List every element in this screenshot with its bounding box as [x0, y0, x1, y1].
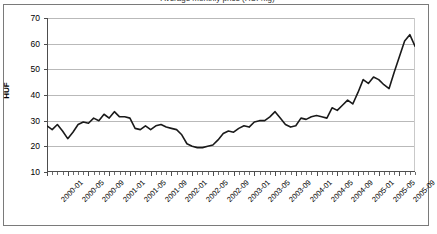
- x-tick-mark: [270, 172, 271, 175]
- x-tick-mark: [145, 172, 146, 175]
- x-tick-label: 2000-09: [101, 178, 127, 204]
- x-tick-mark: [285, 172, 286, 175]
- x-tick-mark: [166, 172, 167, 175]
- x-tick-mark: [394, 172, 395, 175]
- x-tick-label: 2004-01: [308, 178, 334, 204]
- x-tick-mark: [161, 172, 162, 175]
- x-tick-mark: [182, 172, 183, 175]
- x-axis-labels: 2000-012000-052000-092001-012001-052001-…: [0, 176, 435, 234]
- y-tick-label: 40: [31, 90, 40, 100]
- y-tick-label: 50: [31, 64, 40, 74]
- x-tick-mark: [291, 172, 292, 175]
- data-series-line: [47, 18, 415, 172]
- y-tick-mark: [44, 146, 47, 147]
- x-tick-mark: [63, 172, 64, 175]
- x-tick-mark: [114, 172, 115, 175]
- y-tick-mark: [44, 121, 47, 122]
- x-tick-mark: [223, 172, 224, 175]
- x-tick-label: 2003-09: [287, 178, 313, 204]
- chart-title: Average monthly price (HUF/kg): [160, 0, 274, 3]
- x-tick-mark: [311, 172, 312, 175]
- x-tick-mark: [177, 172, 178, 175]
- y-tick-label: 70: [31, 13, 40, 23]
- x-tick-mark: [244, 172, 245, 175]
- y-tick-label: 20: [31, 141, 40, 151]
- x-tick-mark: [120, 172, 121, 175]
- y-axis-labels: 10203040506070: [0, 18, 44, 172]
- x-tick-mark: [384, 172, 385, 175]
- x-tick-mark: [322, 172, 323, 175]
- x-tick-mark: [197, 172, 198, 175]
- x-tick-label: 2000-01: [59, 178, 85, 204]
- x-tick-label: 2002-09: [225, 178, 251, 204]
- x-tick-mark: [202, 172, 203, 175]
- x-tick-mark: [306, 172, 307, 175]
- y-tick-mark: [44, 69, 47, 70]
- y-tick-label: 30: [31, 116, 40, 126]
- y-tick-mark: [44, 44, 47, 45]
- x-tick-mark: [228, 172, 229, 175]
- x-tick-mark: [218, 172, 219, 175]
- x-tick-mark: [83, 172, 84, 175]
- x-tick-mark: [125, 172, 126, 175]
- x-tick-label: 2005-01: [370, 178, 396, 204]
- x-tick-mark: [73, 172, 74, 175]
- x-tick-mark: [348, 172, 349, 175]
- x-tick-mark: [353, 172, 354, 175]
- x-tick-mark: [389, 172, 390, 175]
- x-tick-mark: [342, 172, 343, 175]
- x-tick-mark: [99, 172, 100, 175]
- x-tick-mark: [415, 172, 416, 175]
- y-tick-mark: [44, 95, 47, 96]
- x-tick-mark: [374, 172, 375, 175]
- x-tick-mark: [57, 172, 58, 175]
- x-tick-label: 2002-05: [204, 178, 230, 204]
- x-tick-mark: [260, 172, 261, 175]
- x-tick-label: 2004-05: [329, 178, 355, 204]
- x-tick-label: 2001-05: [142, 178, 168, 204]
- x-tick-label: 2001-01: [121, 178, 147, 204]
- y-tick-mark: [44, 18, 47, 19]
- x-tick-mark: [265, 172, 266, 175]
- plot-area: [47, 18, 415, 172]
- x-tick-mark: [156, 172, 157, 175]
- x-tick-mark: [104, 172, 105, 175]
- x-tick-mark: [368, 172, 369, 175]
- x-tick-mark: [332, 172, 333, 175]
- x-tick-mark: [187, 172, 188, 175]
- x-tick-mark: [301, 172, 302, 175]
- x-tick-mark: [140, 172, 141, 175]
- x-tick-mark: [249, 172, 250, 175]
- x-tick-mark: [410, 172, 411, 175]
- x-tick-mark: [405, 172, 406, 175]
- y-tick-label: 60: [31, 39, 40, 49]
- x-tick-mark: [239, 172, 240, 175]
- x-tick-mark: [52, 172, 53, 175]
- x-tick-mark: [78, 172, 79, 175]
- x-tick-mark: [363, 172, 364, 175]
- x-tick-mark: [94, 172, 95, 175]
- x-tick-mark: [135, 172, 136, 175]
- x-tick-mark: [280, 172, 281, 175]
- x-tick-mark: [327, 172, 328, 175]
- x-tick-mark: [208, 172, 209, 175]
